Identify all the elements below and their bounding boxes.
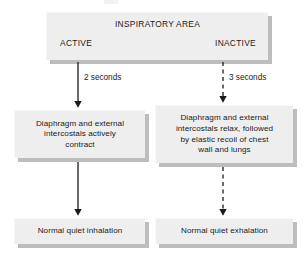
inhalation-outcome-text: Normal quiet inhalation [33, 226, 128, 237]
inhalation-outcome-box: Normal quiet inhalation [14, 218, 145, 244]
exhalation-outcome-box: Normal quiet exhalation [155, 218, 293, 244]
exhalation-outcome-text: Normal quiet exhalation [176, 226, 273, 237]
respiration-flowchart: INSPIRATORY AREA ACTIVE INACTIVE 2 secon… [0, 0, 304, 257]
